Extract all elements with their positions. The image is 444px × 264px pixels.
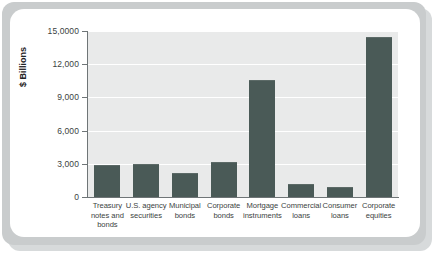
bar [211, 162, 237, 197]
y-axis-tick [82, 31, 87, 32]
bar [366, 37, 392, 197]
bar-series [88, 31, 398, 197]
chart-card: 15,000012,0009,0006,0003,0000 $ Billions… [10, 9, 420, 237]
y-axis-tick [82, 131, 87, 132]
bar [133, 164, 159, 197]
bar [327, 187, 353, 197]
x-axis-line [87, 197, 399, 198]
figure-root: 15,000012,0009,0006,0003,0000 $ Billions… [0, 0, 444, 264]
y-axis-tick [82, 97, 87, 98]
y-axis-tick [82, 164, 87, 165]
bar-chart: 15,000012,0009,0006,0003,0000 $ Billions… [10, 9, 420, 237]
bar [288, 184, 314, 197]
y-axis-tick-labels: 15,000012,0009,0006,0003,0000 [10, 9, 79, 237]
y-axis-tick-label: 12,000 [52, 59, 79, 69]
y-axis-tick [82, 197, 87, 198]
x-axis-category-labels: Treasurynotes andbondsU.S. agencysecurit… [88, 201, 398, 237]
bar [249, 80, 275, 197]
y-axis-tick [82, 64, 87, 65]
y-axis-title: $ Billions [18, 47, 28, 87]
y-axis-tick-label: 9,000 [57, 92, 79, 102]
x-axis-category-label: Corporateequities [353, 201, 404, 220]
y-axis-tick-label: 15,0000 [48, 26, 79, 36]
x-axis-category-label-line: Corporate [353, 201, 404, 211]
x-axis-category-label-line: equities [353, 211, 404, 221]
y-axis-tick-label: 6,000 [57, 126, 79, 136]
y-axis-tick-label: 3,000 [57, 159, 79, 169]
bar [94, 165, 120, 197]
bar [172, 173, 198, 197]
y-axis-tick-label: 0 [74, 192, 79, 202]
x-axis-category-label-line: bonds [82, 220, 133, 230]
